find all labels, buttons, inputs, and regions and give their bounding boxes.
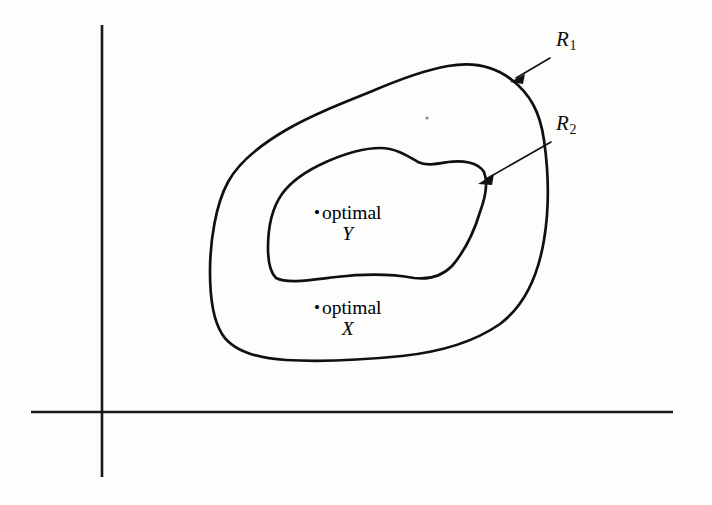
leader-line-r2 [486, 142, 551, 179]
region-label-r1-letter: R [556, 27, 569, 51]
optimal-y-line1: •optimal [314, 203, 382, 223]
region-label-r1-subscript: 1 [570, 38, 577, 53]
optimal-y-variable: Y [314, 223, 382, 245]
bullet-icon: • [314, 203, 320, 222]
point-annotation-optimal-y: •optimal Y [314, 203, 382, 246]
leader-line-r1 [516, 58, 550, 78]
optimal-y-text: optimal [322, 202, 382, 223]
point-annotation-optimal-x: •optimal X [314, 298, 382, 341]
diagram-svg [0, 0, 712, 505]
print-speck [425, 116, 428, 119]
figure-canvas: R1 R2 •optimal Y •optimal X [0, 0, 712, 505]
region-label-r2: R2 [556, 111, 577, 138]
region-label-r2-subscript: 2 [570, 122, 577, 137]
optimal-x-variable: X [314, 318, 382, 340]
optimal-x-line1: •optimal [314, 298, 382, 318]
bullet-icon: • [314, 298, 320, 317]
optimal-x-text: optimal [322, 297, 382, 318]
region-label-r1: R1 [556, 27, 577, 54]
region-label-r2-letter: R [556, 111, 569, 135]
